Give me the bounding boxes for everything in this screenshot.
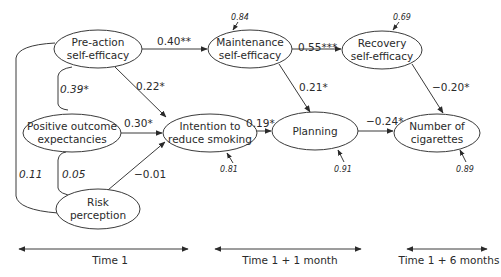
node-positive-outcome-expectancies: Positive outcome expectancies [23,114,121,152]
timeline-label-time1-1month: Time 1 + 1 month [241,254,337,266]
node-risk-perception: Risk perception [56,189,140,229]
node-label-line2: cigarettes [411,133,464,145]
residual-arrow-intention [227,153,233,163]
path-risk-to-intention [108,142,165,190]
node-preaction-self-efficacy: Pre-action self-efficacy [54,30,142,68]
residual-intention: 0.81 [220,165,238,174]
path-model-diagram: Pre-action self-efficacy Positive outcom… [0,0,501,277]
node-intention-to-reduce-smoking: Intention to reduce smoking [163,114,257,152]
node-label-line1: Recovery [358,37,407,49]
node-label-line2: self-efficacy [219,49,282,61]
coef-preaction-to-maintenance: 0.40** [157,35,191,47]
residual-recovery: 0.69 [393,13,411,22]
residual-arrow-planning [338,150,344,162]
node-number-of-cigarettes: Number of cigarettes [394,114,480,152]
residual-cigarettes: 0.89 [456,165,474,174]
coef-intention-to-planning: 0.19* [246,117,275,129]
coef-planning-to-cigarettes: −0.24* [366,115,403,127]
coef-risk-to-intention: −0.01 [134,168,166,180]
coef-preaction-to-intention: 0.22* [136,80,165,92]
residual-arrow-recovery [393,22,399,30]
cov-positive-risk: 0.05 [62,168,86,180]
node-label-line1: Maintenance [216,36,284,48]
timeline-label-time1-6months: Time 1 + 6 months [398,254,500,266]
node-label-line2: self-efficacy [351,50,414,62]
residual-planning: 0.91 [334,165,352,174]
node-label-line1: Pre-action [72,36,125,48]
node-label-line1: Number of [409,120,465,132]
node-label-line1: Positive outcome [27,120,117,132]
node-planning: Planning [272,112,358,150]
coef-maintenance-to-planning: 0.21* [299,81,328,93]
path-preaction-to-intention [115,67,166,117]
coef-maintenance-to-recovery: 0.55*** [298,41,337,53]
coef-positive-to-intention: 0.30* [124,117,153,129]
residual-arrow-maintenance [233,22,238,30]
node-label-line1: Intention to [180,120,241,132]
node-maintenance-self-efficacy: Maintenance self-efficacy [208,30,292,68]
node-label-line1: Risk [87,196,110,208]
residual-maintenance: 0.84 [231,13,249,22]
node-label-line2: perception [70,209,126,221]
node-label-line2: self-efficacy [67,49,130,61]
cov-preaction-positive: 0.39* [60,83,89,95]
node-recovery-self-efficacy: Recovery self-efficacy [342,31,422,69]
timeline-label-time1: Time 1 [91,254,128,266]
node-label-line2: expectancies [37,133,106,145]
node-label-line2: reduce smoking [168,133,252,145]
cov-preaction-risk: 0.11 [19,168,42,180]
coef-recovery-to-cigarettes: −0.20* [432,81,469,93]
node-label-line1: Planning [292,125,337,137]
residual-arrow-cigarettes [460,150,466,162]
